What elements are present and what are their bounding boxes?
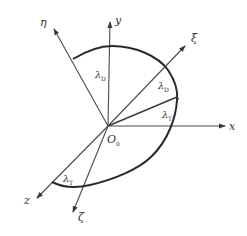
svg-text:D: D xyxy=(164,86,169,93)
axis-z: z xyxy=(23,126,108,207)
axis-label-x: x xyxy=(229,120,236,133)
axis-label-xi: ξ xyxy=(191,32,198,45)
diagram-canvas: y η ξ x z ζ λ D xyxy=(0,0,247,236)
svg-text:0: 0 xyxy=(116,140,120,147)
axis-label-z: z xyxy=(23,194,30,207)
axis-label-eta: η xyxy=(40,16,47,29)
svg-text:T: T xyxy=(168,115,172,122)
bounding-curve xyxy=(52,46,177,187)
axis-label-y: y xyxy=(114,14,122,27)
axis-label-zeta: ζ xyxy=(78,211,85,224)
angle-label-x: λ T xyxy=(161,109,172,122)
angle-label-z-zeta: λ T xyxy=(62,173,73,186)
svg-text:D: D xyxy=(101,75,106,82)
axis-zeta: ζ xyxy=(73,126,108,224)
svg-text:O: O xyxy=(107,133,116,146)
angle-label-xi: λ D xyxy=(157,80,169,93)
angle-label-y-eta: λ D xyxy=(94,69,106,82)
svg-text:T: T xyxy=(69,179,73,186)
origin-label: O 0 xyxy=(107,133,120,147)
axis-y: y xyxy=(108,14,122,126)
